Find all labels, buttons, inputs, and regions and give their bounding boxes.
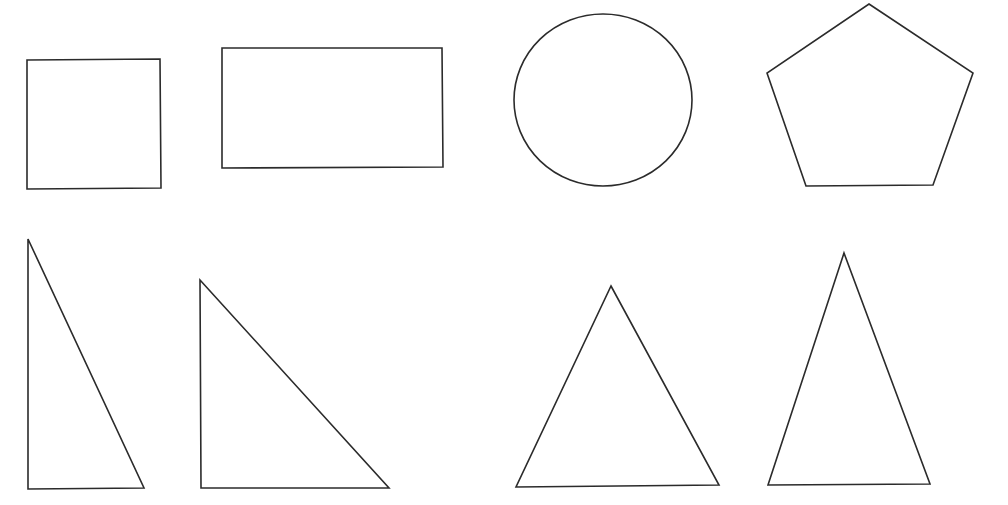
canvas-background bbox=[0, 0, 1008, 505]
shapes-canvas bbox=[0, 0, 1008, 505]
